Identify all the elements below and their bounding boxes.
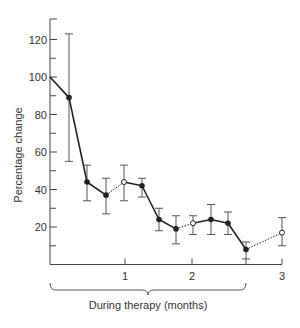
marker-filled: [225, 220, 231, 226]
line-segment-dotted: [246, 233, 282, 250]
marker-open: [191, 221, 196, 226]
marker-filled: [103, 192, 109, 198]
therapy-brace: [50, 283, 246, 295]
line-segment-solid: [228, 223, 246, 249]
y-axis: 20406080100120: [29, 19, 57, 265]
data-line: [50, 77, 282, 250]
line-segment-solid: [87, 182, 106, 195]
x-axis-label: During therapy (months): [89, 299, 208, 311]
line-segment-solid: [159, 220, 176, 229]
y-tick-label: 80: [35, 109, 47, 121]
x-tick-label: 3: [279, 270, 285, 282]
x-tick-label: 1: [122, 270, 128, 282]
x-tick-label: 2: [189, 270, 195, 282]
marker-filled: [173, 226, 179, 232]
marker-filled: [156, 217, 162, 223]
line-segment-solid: [69, 98, 87, 182]
error-bars: [65, 34, 286, 259]
y-tick-label: 40: [35, 184, 47, 196]
chart: 20406080100120 123 Percentage change Dur…: [0, 0, 300, 328]
line-segment-solid: [142, 186, 159, 220]
y-tick-label: 20: [35, 221, 47, 233]
x-axis: 123: [50, 259, 285, 282]
marker-filled: [208, 217, 214, 223]
line-segment-solid: [50, 77, 69, 98]
line-segment-dotted: [106, 182, 124, 195]
marker-filled: [66, 95, 72, 101]
marker-filled: [139, 183, 145, 189]
y-tick-label: 120: [29, 34, 47, 46]
marker-filled: [243, 247, 249, 253]
marker-filled: [84, 179, 90, 185]
marker-open: [122, 180, 127, 185]
marker-open: [280, 230, 285, 235]
data-markers: [66, 95, 284, 252]
y-axis-label: Percentage change: [12, 107, 24, 202]
y-tick-label: 60: [35, 146, 47, 158]
y-tick-label: 100: [29, 71, 47, 83]
